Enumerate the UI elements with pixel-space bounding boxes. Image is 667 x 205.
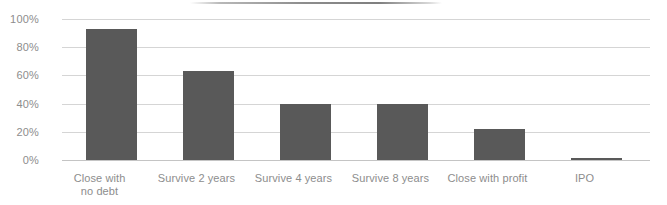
bar-ipo <box>571 158 622 160</box>
gridline-80 <box>62 47 650 48</box>
bar-close-with-no-debt <box>86 29 137 160</box>
xlabel-ipo: IPO <box>527 172 642 185</box>
bar-survive-4-years <box>280 104 331 160</box>
gridline-100 <box>62 19 650 20</box>
bar-close-with-profit <box>474 129 525 160</box>
plot-area: 100% 80% 60% 40% 20% 0% <box>62 19 650 160</box>
gridline-40 <box>62 104 650 105</box>
top-rule-artifact <box>190 2 442 4</box>
gridline-0-baseline <box>62 160 650 161</box>
bar-survive-2-years <box>183 71 234 160</box>
xlabel-line-2: no debt <box>42 185 157 198</box>
ytick-label-80: 80% <box>0 41 39 53</box>
ytick-label-0: 0% <box>0 154 39 166</box>
gridline-20 <box>62 132 650 133</box>
ytick-label-60: 60% <box>0 69 39 81</box>
ytick-label-20: 20% <box>0 126 39 138</box>
gridline-60 <box>62 75 650 76</box>
ytick-label-40: 40% <box>0 98 39 110</box>
bar-survive-8-years <box>377 104 428 160</box>
bar-chart: 100% 80% 60% 40% 20% 0% Close with no de… <box>0 0 667 205</box>
ytick-label-100: 100% <box>0 13 39 25</box>
xlabel-line-1: IPO <box>527 172 642 185</box>
